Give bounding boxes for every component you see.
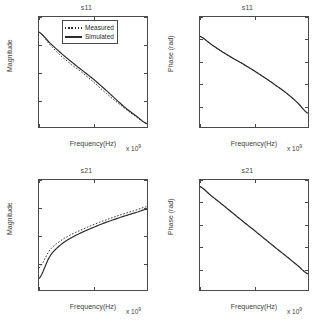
- x-tick-mark: [255, 124, 256, 127]
- y-tick-mark: [200, 225, 203, 226]
- y-tick-mark: [305, 62, 308, 63]
- x-tick-mark: [200, 124, 201, 127]
- x-axis-exponent: x 109: [287, 306, 302, 315]
- y-tick-mark: [144, 208, 147, 209]
- y-tick-mark: [144, 73, 147, 74]
- y-tick-mark: [144, 236, 147, 237]
- x-tick-mark: [94, 124, 95, 127]
- legend-entry-simulated: Simulated: [65, 32, 114, 41]
- x-tick-mark: [255, 17, 256, 20]
- y-tick-mark: [200, 84, 203, 85]
- y-tick-mark: [305, 270, 308, 271]
- legend: Measured Simulated: [62, 20, 118, 44]
- y-tick-mark: [305, 17, 308, 18]
- x-axis-exponent: x 109: [287, 143, 302, 152]
- x-tick-mark: [200, 287, 201, 290]
- y-tick-mark: [39, 101, 42, 102]
- y-axis-label: Phase (rad): [167, 198, 174, 235]
- x-tick-mark: [94, 180, 95, 183]
- legend-entry-measured: Measured: [65, 23, 114, 32]
- y-tick-mark: [200, 62, 203, 63]
- x-tick-mark: [200, 180, 201, 183]
- subplot-s11-phase: s11 Phase (rad) -3-2-101222.53 Frequency…: [161, 0, 322, 163]
- subplot-s11-magnitude: s11 Magnitude 0.40.50.60.70.822.53 Frequ…: [0, 0, 161, 163]
- y-tick-mark: [200, 107, 203, 108]
- x-tick-mark: [39, 124, 40, 127]
- y-tick-mark: [305, 202, 308, 203]
- x-tick-mark: [255, 180, 256, 183]
- y-tick-mark: [144, 180, 147, 181]
- solid-line-sample-icon: [65, 33, 82, 40]
- subplot-title: s11: [6, 4, 167, 11]
- y-axis-label: Magnitude: [6, 202, 13, 235]
- y-tick-mark: [200, 247, 203, 248]
- x-axis-exponent: x 109: [126, 143, 141, 152]
- y-axis-label: Phase (rad): [167, 35, 174, 72]
- plot-area: -2-1012322.53: [199, 179, 309, 291]
- y-tick-mark: [305, 107, 308, 108]
- y-axis-label: Magnitude: [6, 39, 13, 72]
- x-tick-mark: [200, 17, 201, 20]
- plot-lines: [200, 180, 308, 290]
- x-tick-mark: [39, 287, 40, 290]
- subplot-s21-phase: s21 Phase (rad) -2-1012322.53 Frequency(…: [161, 163, 322, 326]
- x-tick-mark: [39, 17, 40, 20]
- y-tick-mark: [200, 39, 203, 40]
- y-tick-mark: [144, 17, 147, 18]
- y-tick-mark: [39, 264, 42, 265]
- x-tick-mark: [255, 287, 256, 290]
- y-tick-mark: [144, 101, 147, 102]
- y-tick-mark: [144, 264, 147, 265]
- y-tick-mark: [305, 84, 308, 85]
- matlab-figure: s11 Magnitude 0.40.50.60.70.822.53 Frequ…: [0, 0, 322, 326]
- y-tick-mark: [144, 45, 147, 46]
- legend-label: Simulated: [85, 33, 114, 40]
- y-tick-mark: [305, 247, 308, 248]
- y-tick-mark: [200, 270, 203, 271]
- subplot-title: s21: [167, 167, 322, 174]
- plot-lines: [39, 180, 147, 290]
- y-tick-mark: [39, 236, 42, 237]
- y-tick-mark: [39, 73, 42, 74]
- y-tick-mark: [305, 225, 308, 226]
- plot-lines: [200, 17, 308, 127]
- y-tick-mark: [39, 45, 42, 46]
- subplot-s21-magnitude: s21 Magnitude 0.60.70.80.9122.53 Frequen…: [0, 163, 161, 326]
- y-tick-mark: [200, 202, 203, 203]
- legend-label: Measured: [85, 24, 114, 31]
- y-tick-mark: [305, 180, 308, 181]
- plot-area: -3-2-101222.53: [199, 16, 309, 128]
- x-tick-mark: [94, 287, 95, 290]
- y-tick-mark: [39, 208, 42, 209]
- plot-area: 0.60.70.80.9122.53: [38, 179, 148, 291]
- subplot-title: s11: [167, 4, 322, 11]
- subplot-title: s21: [6, 167, 167, 174]
- x-tick-mark: [39, 180, 40, 183]
- x-axis-exponent: x 109: [126, 306, 141, 315]
- y-tick-mark: [305, 39, 308, 40]
- dotted-line-sample-icon: [65, 24, 82, 31]
